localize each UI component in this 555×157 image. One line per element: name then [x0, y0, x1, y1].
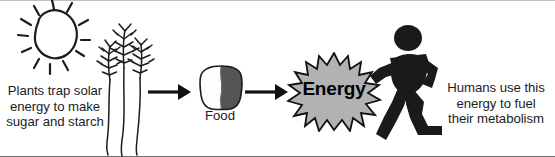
label-food: Food	[190, 108, 250, 123]
caption-humans: Humans use this energy to fuel their met…	[437, 80, 555, 127]
arrow-plants-to-food	[148, 80, 192, 104]
arrow-food-to-energy	[245, 80, 289, 104]
bread-slice-icon	[194, 64, 248, 112]
page-bottom-edge	[0, 156, 555, 157]
caption-plants: Plants trap solar energy to make sugar a…	[0, 83, 110, 130]
running-person-icon	[362, 22, 448, 148]
energy-flow-diagram: Plants trap solar energy to make sugar a…	[0, 0, 555, 157]
sun-icon	[8, 0, 100, 80]
